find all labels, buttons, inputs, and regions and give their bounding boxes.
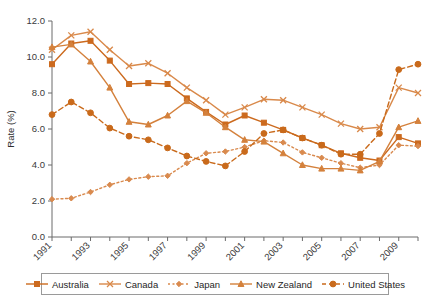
- data-point: [280, 140, 285, 145]
- legend-item-japan[interactable]: Japan: [167, 278, 220, 290]
- data-point: [126, 133, 132, 139]
- data-point: [357, 151, 363, 157]
- legend-label: New Zealand: [256, 279, 312, 290]
- data-point: [299, 104, 305, 110]
- chart-legend: AustraliaCanadaJapanNew ZealandUnited St…: [41, 273, 389, 295]
- data-point: [319, 112, 325, 118]
- series-united-states: [49, 61, 421, 169]
- x-tick-label: 2007: [339, 240, 362, 263]
- series-new-zealand: [49, 41, 421, 173]
- data-point: [396, 67, 402, 73]
- x-tick-label: 2009: [377, 240, 400, 263]
- circle-marker-icon: [321, 278, 345, 290]
- y-tick-label: 10.0: [27, 51, 46, 62]
- data-point: [146, 174, 151, 179]
- series-line: [52, 32, 418, 129]
- data-point: [261, 131, 267, 137]
- legend-label: Japan: [194, 279, 220, 290]
- y-axis-title: Rate (%): [5, 110, 16, 147]
- legend-marker: [330, 281, 336, 287]
- data-point: [203, 97, 209, 103]
- x-tick-label: 1993: [69, 240, 92, 263]
- data-point: [396, 143, 401, 148]
- data-point: [69, 196, 74, 201]
- data-point: [300, 135, 306, 141]
- data-point: [107, 125, 113, 131]
- legend-label: Canada: [125, 279, 158, 290]
- legend-marker: [176, 281, 181, 286]
- data-point: [280, 150, 286, 156]
- data-point: [165, 82, 170, 87]
- y-tick-label: 6.0: [32, 123, 45, 134]
- series-line: [52, 141, 418, 200]
- x-tick-label: 1999: [185, 240, 208, 263]
- legend-item-australia[interactable]: Australia: [25, 278, 89, 290]
- series-line: [52, 64, 418, 166]
- x-tick-label: 1991: [31, 240, 54, 263]
- legend-label: United States: [348, 279, 405, 290]
- data-point: [319, 142, 325, 148]
- x-tick-label: 2005: [300, 240, 323, 263]
- data-point: [203, 159, 209, 165]
- data-point: [396, 135, 401, 140]
- series-australia: [50, 38, 421, 163]
- y-tick-label: 4.0: [32, 159, 45, 170]
- y-tick-label: 0.0: [32, 231, 45, 242]
- data-point: [184, 153, 190, 159]
- data-point: [300, 150, 305, 155]
- data-point: [88, 38, 93, 43]
- data-point: [165, 145, 171, 151]
- x-tick-label: 1995: [108, 240, 131, 263]
- x-tick-label: 1997: [146, 240, 169, 263]
- data-point: [50, 62, 55, 67]
- data-point: [242, 104, 248, 110]
- data-point: [184, 85, 190, 91]
- data-point: [242, 113, 247, 118]
- x-tick-label: 2001: [223, 240, 246, 263]
- data-point: [88, 110, 94, 116]
- data-point: [261, 120, 266, 125]
- data-point: [377, 131, 383, 137]
- triangle-marker-icon: [229, 278, 253, 290]
- x-tick-label: 2003: [262, 240, 285, 263]
- legend-item-new-zealand[interactable]: New Zealand: [229, 278, 312, 290]
- data-point: [107, 47, 113, 53]
- data-point: [146, 81, 151, 86]
- series-japan: [49, 138, 420, 202]
- data-point: [165, 70, 171, 76]
- data-point: [415, 118, 421, 124]
- legend-item-united-states[interactable]: United States: [321, 278, 405, 290]
- line-chart-plot: 0.02.04.06.08.010.012.019911993199519971…: [0, 0, 429, 304]
- data-point: [415, 61, 421, 67]
- legend-marker: [34, 282, 39, 287]
- data-point: [223, 149, 228, 154]
- data-point: [88, 189, 93, 194]
- y-tick-label: 2.0: [32, 195, 45, 206]
- y-tick-label: 12.0: [27, 15, 46, 26]
- data-point: [222, 112, 228, 118]
- data-point: [68, 99, 74, 105]
- data-point: [203, 151, 208, 156]
- data-point: [299, 162, 305, 168]
- data-point: [338, 151, 344, 157]
- data-point: [145, 137, 151, 143]
- data-point: [280, 127, 286, 133]
- square-marker-icon: [25, 278, 49, 290]
- legend-label: Australia: [52, 279, 89, 290]
- data-point: [242, 149, 248, 155]
- diamond-marker-icon: [167, 278, 191, 290]
- data-point: [49, 112, 55, 118]
- data-point: [107, 182, 112, 187]
- data-point: [107, 58, 112, 63]
- cross-marker-icon: [98, 278, 122, 290]
- data-point: [127, 82, 132, 87]
- y-tick-label: 8.0: [32, 87, 45, 98]
- data-point: [319, 155, 324, 160]
- legend-item-canada[interactable]: Canada: [98, 278, 158, 290]
- data-point: [222, 163, 228, 169]
- chart-container: 0.02.04.06.08.010.012.019911993199519971…: [0, 0, 429, 304]
- data-point: [126, 177, 131, 182]
